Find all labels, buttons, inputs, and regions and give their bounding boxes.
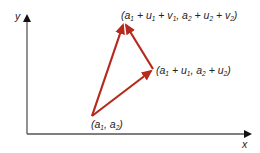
vector-v-arrow <box>126 25 153 69</box>
start-point-label: (a1, a2) <box>91 118 123 131</box>
mid-point-label: (a1 + u1, a2 + u2) <box>156 64 231 77</box>
end-point-label: (a1 + u1 + v1, a2 + u2 + v2) <box>121 9 237 22</box>
y-axis-label: y <box>14 10 21 22</box>
vector-diagram: y x (a1 + u1 + v1, a2 + u2 + v2) (a1 + u… <box>0 0 260 153</box>
vector-u-arrow <box>92 71 151 116</box>
vector-sum-arrow <box>92 25 123 116</box>
x-axis-label: x <box>241 138 248 150</box>
vectors <box>92 25 153 116</box>
axes: y x <box>14 10 250 150</box>
